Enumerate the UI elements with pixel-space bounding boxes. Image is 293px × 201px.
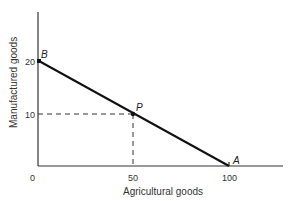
point-p-label: P <box>136 102 143 113</box>
point-b-label: B <box>41 49 48 60</box>
x-tick-50: 50 <box>128 173 138 183</box>
point-p-marker <box>131 112 135 116</box>
y-tick-20: 20 <box>25 57 35 67</box>
origin-tick: 0 <box>30 173 35 183</box>
x-tick-100: 100 <box>222 173 237 183</box>
chart-canvas: B P A 20 10 0 50 100 Agricultural goods … <box>0 0 293 201</box>
y-axis-label: Manufactured goods <box>8 37 19 128</box>
y-tick-10: 10 <box>25 110 35 120</box>
x-axis-label: Agricultural goods <box>123 186 203 197</box>
point-a-label: A <box>232 155 240 166</box>
